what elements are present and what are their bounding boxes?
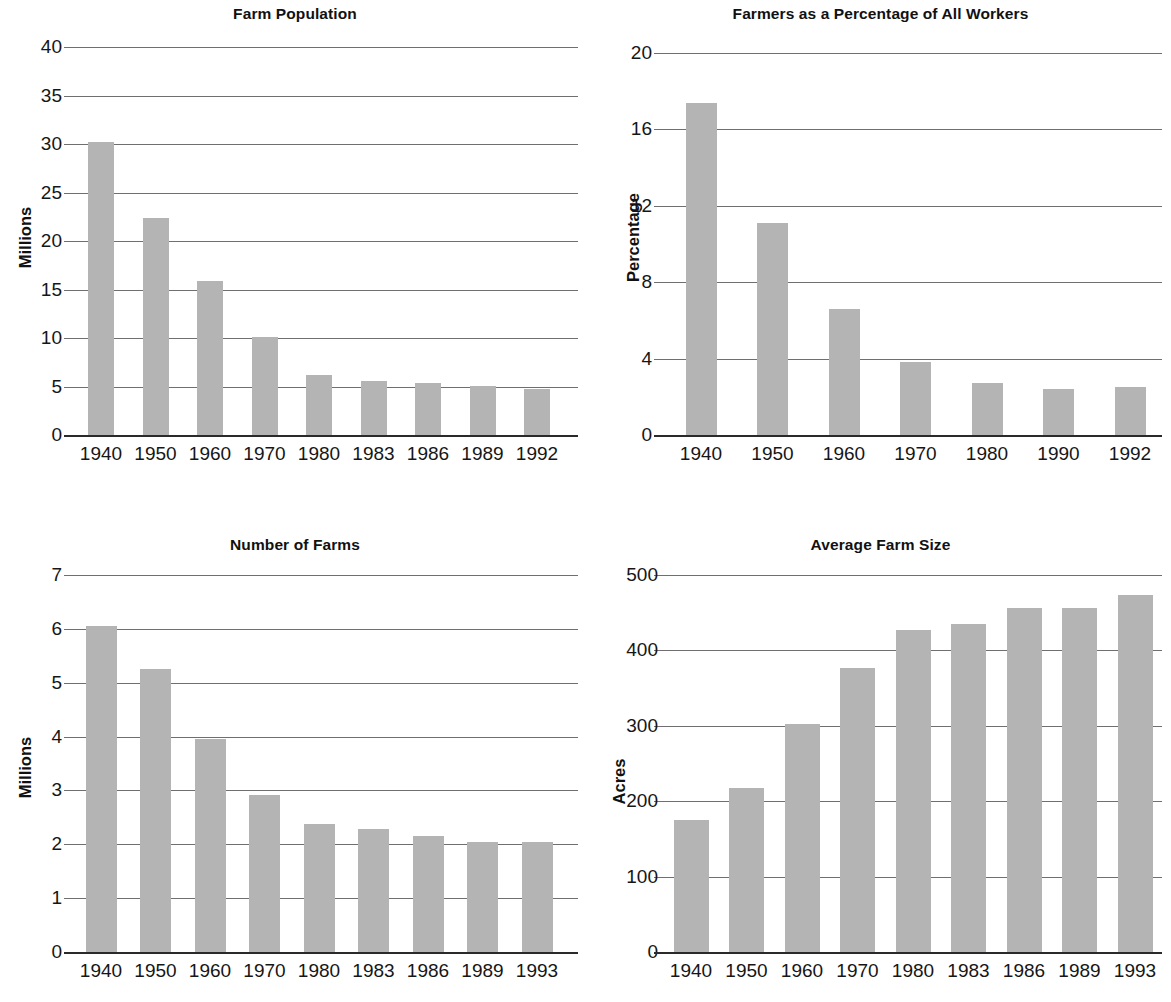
bar [1115,387,1146,435]
bar [470,386,496,435]
y-axis-tick-label: 20 [592,43,652,62]
gridline [78,575,578,576]
y-axis-tick-label: 2 [2,834,62,853]
y-axis-tick-label: 5 [2,377,62,396]
bar [1062,608,1097,952]
x-axis-tick-label: 1989 [1048,961,1112,980]
y-axis-tick-label: 10 [2,328,62,347]
y-axis-tick [654,359,668,360]
y-axis-tick-label: 6 [2,619,62,638]
x-axis-tick-label: 1950 [715,961,779,980]
bar [195,739,226,952]
y-axis-tick [64,629,78,630]
y-axis-tick-label: 0 [592,425,652,444]
bar [522,842,553,952]
x-axis-line [64,435,578,437]
y-axis-tick-label: 300 [598,716,658,735]
plot-area: 0481216201940195019601970198019901992 [590,0,1171,480]
bar [358,829,389,952]
y-axis-tick [64,575,78,576]
y-axis-tick [64,193,78,194]
y-axis-tick-label: 500 [598,565,658,584]
y-axis-tick-label: 35 [2,86,62,105]
plot-area: 0123456719401950196019701980198319861989… [0,500,590,1002]
gridline [78,96,578,97]
y-axis-tick [654,129,668,130]
x-axis-tick-label: 1980 [881,961,945,980]
y-axis-tick-label: 8 [592,272,652,291]
bar [86,626,117,952]
x-axis-tick-label: 1940 [669,444,733,463]
y-axis-tick-label: 0 [2,942,62,961]
bar [197,281,223,435]
plot-area: 0100200300400500194019501960197019801983… [590,500,1171,1002]
x-axis-tick-label: 1992 [505,444,569,463]
bar [413,836,444,952]
y-axis-tick [64,737,78,738]
bar [252,337,278,435]
y-axis-tick [64,338,78,339]
plot-area: 0510152025303540194019501960197019801983… [0,0,590,480]
x-axis-tick-label: 1993 [505,961,569,980]
bar [1007,608,1042,952]
y-axis-tick [64,241,78,242]
y-axis-tick-label: 5 [2,673,62,692]
y-axis-tick [64,47,78,48]
x-axis-tick-label: 1993 [1103,961,1167,980]
y-axis-tick-label: 4 [592,349,652,368]
x-axis-tick-label: 1940 [659,961,723,980]
x-axis-tick-label: 1992 [1098,444,1162,463]
x-axis-tick-label: 1950 [741,444,805,463]
y-axis-tick [64,96,78,97]
bar [1118,595,1153,952]
x-axis-line [64,952,578,954]
bar [829,309,860,435]
y-axis-tick [64,898,78,899]
bar [674,820,709,952]
y-axis-tick-label: 0 [2,425,62,444]
y-axis-tick [64,144,78,145]
gridline [78,629,578,630]
bar [306,375,332,435]
gridline [668,575,1162,576]
y-axis-tick [654,282,668,283]
y-axis-tick-label: 25 [2,183,62,202]
x-axis-tick-label: 1960 [812,444,876,463]
x-axis-line [654,435,1162,437]
x-axis-tick-label: 1960 [770,961,834,980]
y-axis-tick-label: 7 [2,565,62,584]
bar [143,218,169,435]
x-axis-tick-label: 1980 [955,444,1019,463]
bar [467,842,498,952]
y-axis-tick-label: 200 [598,791,658,810]
gridline [668,359,1162,360]
y-axis-tick [654,53,668,54]
bar [1043,389,1074,435]
y-axis-tick [64,844,78,845]
x-axis-tick-label: 1986 [992,961,1056,980]
y-axis-tick [64,387,78,388]
bar [140,669,171,952]
x-axis-tick-label: 1970 [884,444,948,463]
gridline [78,144,578,145]
bar [361,381,387,435]
bar [88,142,114,435]
y-axis-tick-label: 100 [598,867,658,886]
chart-number-of-farms: Number of Farms Millions 012345671940195… [0,500,590,1002]
chart-farmers-percentage: Farmers as a Percentage of All Workers P… [590,0,1171,480]
bar [524,389,550,435]
gridline [668,282,1162,283]
y-axis-tick-label: 15 [2,280,62,299]
y-axis-tick [654,206,668,207]
x-axis-tick-label: 1983 [937,961,1001,980]
gridline [668,53,1162,54]
gridline [668,206,1162,207]
y-axis-tick-label: 400 [598,640,658,659]
gridline [78,47,578,48]
chart-farm-population: Farm Population Millions 051015202530354… [0,0,590,480]
x-axis-line [654,952,1162,954]
x-axis-tick-label: 1990 [1027,444,1091,463]
bar [840,668,875,952]
gridline [78,193,578,194]
bar [729,788,764,952]
